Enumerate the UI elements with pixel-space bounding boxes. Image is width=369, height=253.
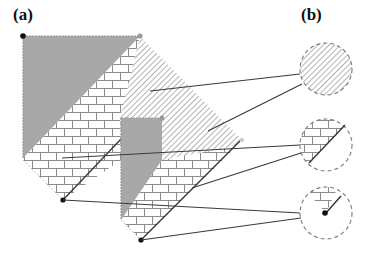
diagram-canvas: [0, 0, 369, 253]
front-top-right-vertex: [160, 116, 165, 121]
detail-circle-brick-edge: [300, 119, 352, 171]
hatch-corner-vertex: [240, 138, 244, 142]
back-top-right-vertex: [137, 33, 142, 38]
detail-circle-brick-vertex: [300, 187, 352, 239]
detail-circle-hatched: [300, 43, 352, 95]
back-top-left-vertex: [20, 33, 26, 39]
